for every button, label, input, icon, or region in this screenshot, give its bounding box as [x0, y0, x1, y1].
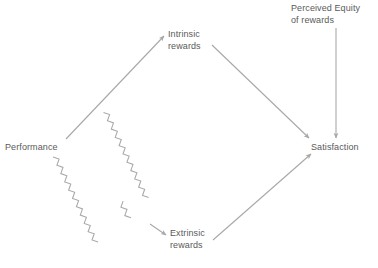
node-perceived-equity-label-line2: of rewards [291, 15, 360, 27]
edge-performance-to-intrinsic [66, 36, 164, 139]
node-satisfaction-label: Satisfaction [311, 142, 359, 154]
node-performance-label: Performance [5, 142, 58, 154]
node-extrinsic-rewards-label-line2: rewards [170, 240, 205, 252]
node-perceived-equity-of-rewards: Perceived Equity of rewards [291, 3, 360, 26]
edge-performance-to-extrinsic-zigzag [53, 157, 98, 242]
node-extrinsic-rewards: Extrinsic rewards [170, 228, 205, 251]
edge-performance-to-extrinsic-zigzag-tail [121, 201, 131, 218]
node-perceived-equity-label-line1: Perceived Equity [291, 3, 360, 15]
edge-extrinsic-to-satisfaction [213, 154, 311, 240]
node-intrinsic-rewards-label-line2: rewards [168, 41, 201, 53]
edge-performance-to-extrinsic-arrowhead [150, 224, 166, 235]
node-performance: Performance [5, 142, 58, 154]
edge-performance-to-extrinsic [53, 113, 166, 243]
node-extrinsic-rewards-label-line1: Extrinsic [170, 228, 205, 240]
diagram-canvas: Performance Intrinsic rewards Extrinsic … [0, 0, 378, 268]
node-satisfaction: Satisfaction [311, 142, 359, 154]
edge-performance-to-extrinsic-zigzag-mid [104, 113, 149, 198]
node-intrinsic-rewards: Intrinsic rewards [168, 29, 201, 52]
edge-intrinsic-to-satisfaction [212, 45, 309, 138]
node-intrinsic-rewards-label-line1: Intrinsic [168, 29, 201, 41]
